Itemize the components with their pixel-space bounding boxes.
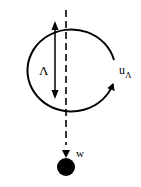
eddy-diagram: Λ uΛ w: [0, 0, 141, 187]
length-arrowhead-top: [52, 21, 59, 30]
velocity-label: uΛ: [119, 63, 132, 80]
weight-label: w: [76, 147, 84, 159]
velocity-label-sub: Λ: [125, 70, 132, 80]
weight-arrowhead: [62, 150, 70, 158]
length-arrowhead-bottom: [52, 90, 59, 99]
length-label: Λ: [39, 63, 49, 78]
weight-ball: [57, 158, 75, 176]
